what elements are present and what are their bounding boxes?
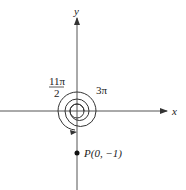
x-axis-label: x	[171, 105, 177, 117]
unit-angle-diagram: y x 11π 2 3π P(0, −1)	[0, 0, 186, 190]
spiral-arrowhead-icon	[70, 130, 77, 135]
angle-label-11pi-over-2-denominator: 2	[54, 87, 60, 99]
point-p-dot	[75, 151, 80, 156]
point-p-label: P(0, −1)	[83, 147, 122, 160]
y-axis-label: y	[73, 5, 79, 17]
angle-label-3pi: 3π	[96, 84, 108, 96]
angle-label-11pi-over-2-numerator: 11π	[49, 75, 66, 87]
